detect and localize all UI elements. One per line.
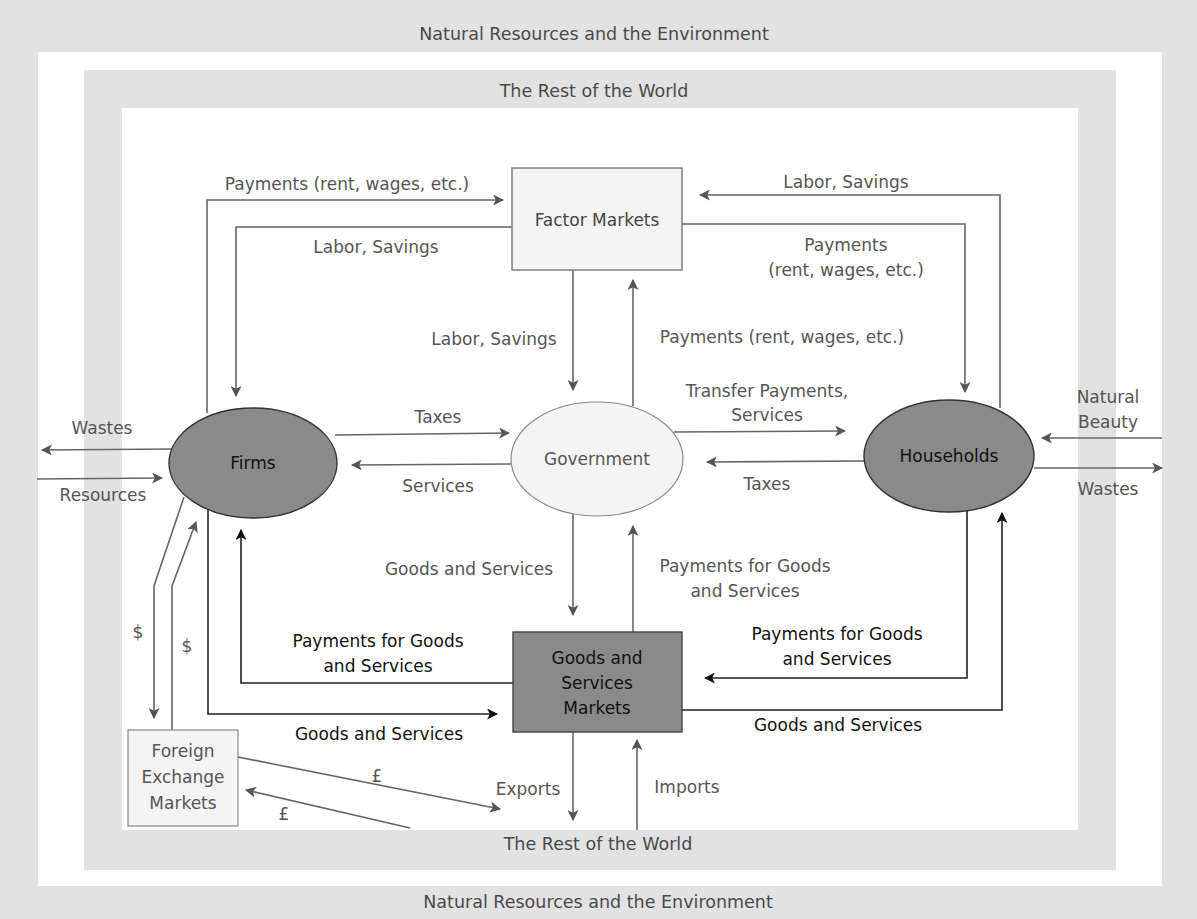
label-firms-to-gov-taxes: Taxes [414, 407, 462, 427]
government-label: Government [544, 449, 650, 469]
label-goods-to-firms-line1: Payments for Goods [292, 631, 463, 651]
households-node: Households [864, 400, 1034, 512]
label-row-to-fx-pounds: £ [279, 804, 290, 824]
label-households-to-goods-line1: Payments for Goods [751, 624, 922, 644]
label-households-to-factor-labor: Labor, Savings [783, 172, 908, 192]
government-node: Government [511, 402, 683, 516]
label-firms-to-fx-dollars: $ [133, 622, 144, 642]
label-goods-to-gov-line1: Payments for Goods [659, 556, 830, 576]
firms-label: Firms [230, 453, 276, 473]
label-factor-to-households-line2: (rent, wages, etc.) [768, 260, 924, 280]
flow-resources-to-firms [37, 478, 162, 479]
label-households-to-goods-line2: and Services [782, 649, 891, 669]
band-label-natural-resources-bottom: Natural Resources and the Environment [423, 892, 773, 912]
label-factor-to-gov-labor: Labor, Savings [431, 329, 556, 349]
fx-label-line1: Foreign [152, 741, 215, 761]
fx-label-line2: Exchange [141, 767, 224, 787]
label-goods-to-gov-line2: and Services [690, 581, 799, 601]
goods-services-markets-node: Goods and Services Markets [513, 632, 682, 732]
firms-node: Firms [169, 408, 337, 518]
circular-flow-diagram: Natural Resources and the Environment Th… [0, 0, 1197, 919]
households-label: Households [900, 446, 999, 466]
label-factor-to-households-line1: Payments [804, 235, 887, 255]
band-label-rest-of-world-top: The Rest of the World [499, 81, 689, 101]
label-natural-beauty-line1: Natural [1077, 387, 1140, 407]
fx-label-line3: Markets [149, 793, 216, 813]
label-fx-to-firms-dollars: $ [182, 636, 193, 656]
label-gov-to-goods: Goods and Services [385, 559, 553, 579]
goods-markets-label-line2: Services [561, 673, 633, 693]
label-gov-to-households-line1: Transfer Payments, [685, 381, 848, 401]
label-imports: Imports [654, 777, 719, 797]
goods-markets-label-line1: Goods and [551, 648, 642, 668]
factor-markets-label: Factor Markets [535, 210, 660, 230]
label-households-to-gov-taxes: Taxes [743, 474, 791, 494]
label-gov-to-firms-services: Services [402, 476, 474, 496]
band-label-natural-resources-top: Natural Resources and the Environment [419, 24, 769, 44]
label-gov-to-factor-payments: Payments (rent, wages, etc.) [660, 327, 904, 347]
factor-markets-node: Factor Markets [512, 168, 682, 270]
band-label-rest-of-world-bottom: The Rest of the World [503, 834, 693, 854]
label-resources: Resources [60, 485, 147, 505]
label-exports: Exports [496, 779, 561, 799]
label-fx-to-row-pounds: £ [372, 766, 383, 786]
label-firms-to-goods: Goods and Services [295, 724, 463, 744]
foreign-exchange-markets-node: Foreign Exchange Markets [128, 730, 238, 826]
label-goods-to-firms-line2: and Services [323, 656, 432, 676]
flow-firms-wastes [42, 449, 172, 450]
flow-households-to-gov-taxes [707, 461, 864, 462]
label-goods-to-households: Goods and Services [754, 715, 922, 735]
label-firms-wastes: Wastes [72, 418, 133, 438]
label-natural-beauty-line2: Beauty [1078, 412, 1138, 432]
label-households-wastes: Wastes [1078, 479, 1139, 499]
label-firms-to-factor-payments: Payments (rent, wages, etc.) [225, 174, 469, 194]
flow-gov-to-firms-services [352, 464, 513, 465]
label-gov-to-households-line2: Services [731, 405, 803, 425]
goods-markets-label-line3: Markets [563, 698, 630, 718]
flow-gov-to-households-transfers [674, 431, 845, 432]
label-factor-to-firms-labor: Labor, Savings [313, 237, 438, 257]
